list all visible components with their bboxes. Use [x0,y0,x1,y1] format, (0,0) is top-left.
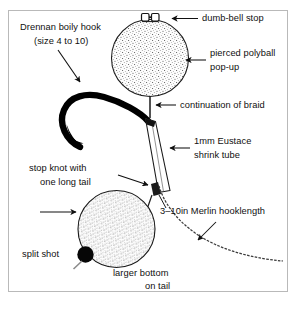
diagram-page: Drennan boily hook (size 4 to 10) dumb-b… [0,0,302,309]
label-polyball-line2: pop-up [210,62,239,74]
label-bottom-line2: on tail [145,281,170,293]
label-shrink-line1: 1mm Eustace [194,136,251,148]
label-hook-line2: (size 4 to 10) [34,36,88,48]
label-stopknot-line2: one long tail [40,177,91,189]
label-polyball-line1: pierced polyball [210,48,275,60]
label-hooklength: 3–10in Merlin hooklength [160,206,265,218]
label-bottom-line1: larger bottom [113,268,168,280]
leader-hooklength [198,222,216,240]
shrink-tube-shape [146,119,171,193]
label-dumbbell-stop: dumb-bell stop [202,13,264,25]
leader-stopknot [118,175,148,185]
label-braid: continuation of braid [180,100,265,112]
leader-hook [58,50,80,82]
hook-shape [62,95,148,147]
split-shot-shape [74,246,94,269]
label-hook-line1: Drennan boily hook [20,22,101,34]
label-shrink-line2: shrink tube [194,150,240,162]
label-stopknot-line1: stop knot with [29,163,87,175]
label-split-shot: split shot [22,249,59,261]
